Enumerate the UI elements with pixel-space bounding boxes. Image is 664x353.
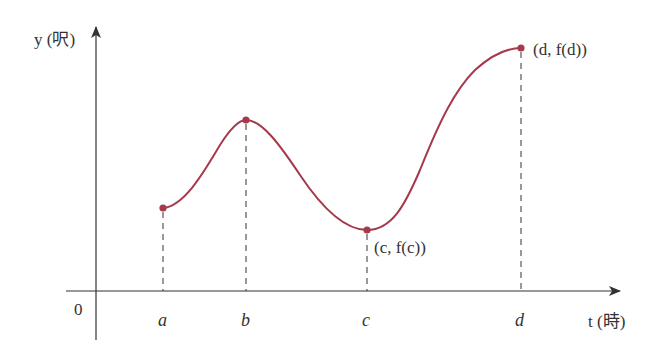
point-a — [159, 204, 166, 211]
function-curve — [163, 48, 521, 230]
point-b — [242, 116, 249, 123]
point-label-c: (c, f(c)) — [374, 238, 426, 257]
function-graph: y (呎) t (時) 0 a b c d (c, f(c)) (d, f(d)… — [0, 0, 664, 353]
y-axis-label: y (呎) — [34, 30, 75, 49]
point-d — [517, 44, 524, 51]
tick-label-d: d — [515, 310, 525, 330]
tick-label-a: a — [158, 310, 167, 330]
dashed-guides — [163, 52, 521, 291]
x-axis-label: t (時) — [588, 312, 625, 331]
tick-label-b: b — [241, 310, 250, 330]
point-c — [363, 226, 370, 233]
origin-label: 0 — [74, 300, 83, 319]
point-label-d: (d, f(d)) — [533, 40, 587, 59]
tick-label-c: c — [362, 310, 370, 330]
